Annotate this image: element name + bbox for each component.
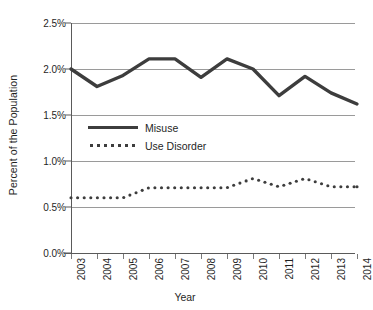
x-tick-label: 2014 [362, 258, 373, 280]
series-dot [339, 185, 342, 188]
legend-item-use-disorder: Use Disorder [88, 137, 206, 155]
series-dot [257, 179, 260, 182]
x-tick-mark [97, 254, 98, 259]
x-tick-mark [305, 254, 306, 259]
gridline [71, 115, 355, 116]
series-dot [301, 178, 304, 181]
gridline [71, 207, 355, 208]
series-dot [333, 185, 336, 188]
y-tick-label: 0.0% [24, 248, 66, 259]
series-dot [109, 196, 112, 199]
series-dot [122, 196, 125, 199]
series-dot [276, 185, 279, 188]
series-dot [116, 196, 119, 199]
series-dot [320, 182, 323, 185]
x-tick-mark [279, 254, 280, 259]
series-dot [213, 186, 216, 189]
x-tick-mark [357, 254, 358, 259]
series-dot [353, 185, 356, 188]
series-dot [173, 186, 176, 189]
y-tick-label: 2.5% [24, 18, 66, 29]
y-tick-label: 2.0% [24, 64, 66, 75]
series-dot [314, 180, 317, 183]
x-tick-label: 2003 [76, 258, 87, 280]
series-dot [226, 186, 229, 189]
legend-swatch-dotted-icon [88, 140, 138, 152]
series-dot [295, 180, 298, 183]
series-dots-use-disorder [69, 177, 358, 199]
series-dot [307, 178, 310, 181]
y-tick-label: 0.5% [24, 202, 66, 213]
x-tick-mark [201, 254, 202, 259]
series-dot [200, 186, 203, 189]
series-dot [147, 186, 150, 189]
series-dot [219, 186, 222, 189]
y-axis-title: Percent of the Population [0, 0, 26, 270]
x-tick-label: 2005 [128, 258, 139, 280]
legend-item-misuse: Misuse [88, 119, 206, 137]
series-dot [186, 186, 189, 189]
series-dot [238, 182, 241, 185]
series-dot [96, 196, 99, 199]
legend-label-use-disorder: Use Disorder [145, 140, 206, 152]
series-dot [326, 184, 329, 187]
x-axis-title: Year [0, 291, 370, 303]
x-tick-label: 2009 [232, 258, 243, 280]
x-tick-mark [123, 254, 124, 259]
series-dot [245, 179, 248, 182]
series-dot [270, 183, 273, 186]
series-dot [289, 182, 292, 185]
x-tick-mark [331, 254, 332, 259]
series-dot [83, 196, 86, 199]
series-dot [76, 196, 79, 199]
x-tick-mark [175, 254, 176, 259]
series-dot [135, 191, 138, 194]
series-dot [167, 186, 170, 189]
x-tick-mark [71, 254, 72, 259]
x-tick-label: 2013 [336, 258, 347, 280]
series-dot [206, 186, 209, 189]
gridline [71, 23, 355, 24]
legend-label-misuse: Misuse [145, 122, 178, 134]
series-dot [232, 184, 235, 187]
x-tick-label: 2012 [310, 258, 321, 280]
x-tick-label: 2007 [180, 258, 191, 280]
y-tick-label: 1.5% [24, 110, 66, 121]
series-dot [346, 185, 349, 188]
series-dot [160, 186, 163, 189]
legend: Misuse Use Disorder [88, 119, 206, 155]
series-line-misuse [71, 59, 357, 104]
x-tick-label: 2006 [154, 258, 165, 280]
series-dot [193, 186, 196, 189]
x-tick-label: 2010 [258, 258, 269, 280]
series-dot [141, 189, 144, 192]
x-tick-label: 2004 [102, 258, 113, 280]
series-dot [89, 196, 92, 199]
x-tick-mark [149, 254, 150, 259]
series-dot [153, 186, 156, 189]
y-axis-line [71, 23, 72, 254]
series-dot [251, 177, 254, 180]
x-tick-mark [253, 254, 254, 259]
x-axis-line [64, 253, 355, 254]
x-tick-label: 2011 [284, 258, 295, 280]
x-tick-label: 2008 [206, 258, 217, 280]
y-axis-title-text: Percent of the Population [7, 75, 19, 195]
series-dot [180, 186, 183, 189]
x-tick-mark [227, 254, 228, 259]
series-dot [102, 196, 105, 199]
series-dot [128, 194, 131, 197]
gridline [71, 69, 355, 70]
gridline [71, 161, 355, 162]
legend-swatch-solid-icon [88, 122, 138, 134]
series-dot [355, 185, 358, 188]
y-tick-label: 1.0% [24, 156, 66, 167]
series-dot [282, 184, 285, 187]
series-dot [263, 181, 266, 184]
